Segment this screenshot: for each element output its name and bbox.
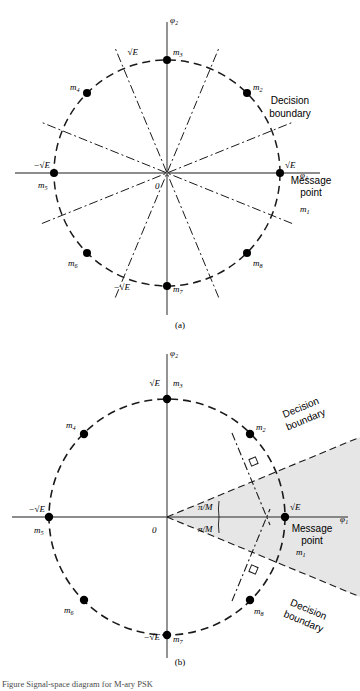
message-point-m6[interactable] bbox=[83, 249, 91, 257]
tick-neg-y-a: −√E bbox=[113, 282, 130, 292]
label-m8-a: m8 bbox=[253, 258, 264, 269]
right-angle-mark-upper bbox=[249, 457, 258, 466]
label-m6-b: m6 bbox=[64, 605, 75, 616]
message-point-m3[interactable] bbox=[163, 56, 171, 64]
decision-boundary-label-bottom: Decision boundary bbox=[282, 596, 330, 634]
label-m6-a: m6 bbox=[68, 258, 79, 269]
tick-pos-y-b: √E bbox=[150, 378, 161, 388]
constellation-diagram-a: φ₂ φ₁ 0 √E −√E −√E √E m3 m2 m4 bbox=[0, 0, 360, 340]
angle-label-upper: π/M bbox=[198, 502, 213, 512]
message-point-m2-b[interactable] bbox=[246, 430, 254, 438]
tick-pos-x-b: √E bbox=[290, 502, 301, 512]
message-point-m7-b[interactable] bbox=[163, 631, 171, 639]
message-point-label-a-line2: point bbox=[300, 187, 322, 198]
label-m7-b: m7 bbox=[173, 634, 184, 645]
message-point-m4-b[interactable] bbox=[80, 430, 88, 438]
origin-label-b: 0 bbox=[152, 525, 157, 535]
panel-a-caption: (a) bbox=[0, 320, 360, 330]
message-point-m6-b[interactable] bbox=[80, 596, 88, 604]
tick-pos-y-a: √E bbox=[128, 47, 139, 57]
tick-neg-y-b: −√E bbox=[143, 632, 160, 642]
label-m2-b: m2 bbox=[256, 422, 266, 433]
label-m5-a: m5 bbox=[38, 180, 48, 191]
label-m3-b: m3 bbox=[173, 378, 183, 389]
angle-label-lower: π/M bbox=[198, 524, 213, 534]
label-m4-b: m4 bbox=[66, 420, 76, 431]
message-point-label-b: Message bbox=[292, 523, 333, 534]
decision-boundary-label-a: Decision bbox=[271, 95, 309, 106]
label-m4-a: m4 bbox=[70, 82, 80, 93]
label-m5-b: m5 bbox=[34, 525, 44, 536]
message-point-m8[interactable] bbox=[243, 249, 251, 257]
label-m8-b: m8 bbox=[254, 606, 265, 617]
message-point-m5[interactable] bbox=[50, 169, 58, 177]
label-m1-a: m1 bbox=[300, 204, 310, 215]
message-point-m4[interactable] bbox=[83, 89, 91, 97]
label-m3-a: m3 bbox=[173, 47, 183, 58]
message-point-m3-b[interactable] bbox=[163, 395, 171, 403]
panel-b: φ₂ φ₁ 0 √E −√E −√E √E m3 m2 m4 bbox=[0, 340, 360, 691]
panel-b-caption: (b) bbox=[0, 657, 360, 667]
message-point-label-a: Message bbox=[291, 175, 332, 186]
right-angle-mark-lower bbox=[249, 565, 258, 574]
decision-boundary-label-top: Decision boundary bbox=[279, 394, 327, 432]
origin-label-a: 0 bbox=[155, 181, 160, 191]
decision-boundary-label-a-line2: boundary bbox=[269, 108, 311, 119]
x-axis-label-b: φ₁ bbox=[340, 514, 348, 524]
message-point-m5-b[interactable] bbox=[45, 513, 53, 521]
panel-a: φ₂ φ₁ 0 √E −√E −√E √E m3 m2 m4 bbox=[0, 0, 360, 340]
message-point-label-b-line2: point bbox=[301, 535, 323, 546]
message-point-m8-b[interactable] bbox=[246, 596, 254, 604]
message-point-m7[interactable] bbox=[163, 282, 171, 290]
tick-pos-x-a: √E bbox=[285, 160, 296, 170]
message-point-m2[interactable] bbox=[243, 89, 251, 97]
label-m2-a: m2 bbox=[253, 82, 263, 93]
figure-caption: Figure Signal-space diagram for M-ary PS… bbox=[2, 679, 358, 689]
message-point-m1[interactable] bbox=[276, 169, 284, 177]
constellation-diagram-b: φ₂ φ₁ 0 √E −√E −√E √E m3 m2 m4 bbox=[0, 340, 360, 691]
y-axis-label-a: φ₂ bbox=[170, 15, 178, 25]
message-point-m1-b[interactable] bbox=[281, 513, 289, 521]
tick-neg-x-b: −√E bbox=[28, 504, 45, 514]
y-axis-label-b: φ₂ bbox=[170, 348, 178, 358]
tick-neg-x-a: −√E bbox=[33, 160, 50, 170]
